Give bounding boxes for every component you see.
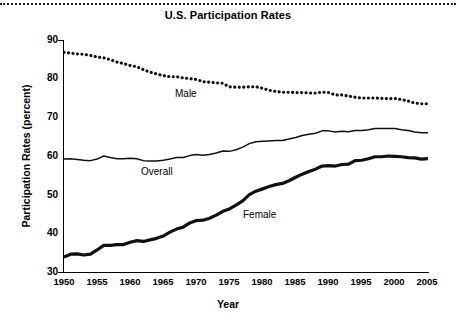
y-tick-label: 80 (28, 73, 58, 83)
y-tick-label: 90 (28, 35, 58, 45)
x-tick-label: 2005 (407, 276, 447, 288)
y-tick-label: 70 (28, 112, 58, 122)
chart-title: U.S. Participation Rates (0, 9, 456, 21)
series-canvas (64, 40, 428, 272)
top-divider-rule (0, 3, 456, 5)
series-label-male: Male (175, 88, 197, 99)
series-label-overall: Overall (141, 166, 173, 177)
y-tick-label: 50 (28, 190, 58, 200)
plot-area (64, 40, 428, 272)
series-line-male (64, 52, 428, 103)
x-axis-line (63, 272, 429, 273)
series-label-female: Female (243, 209, 276, 220)
series-line-female (64, 156, 428, 257)
x-axis-title: Year (0, 298, 456, 310)
y-tick-label: 40 (28, 228, 58, 238)
y-tick-label: 60 (28, 151, 58, 161)
x-axis-tick-labels: 1950 1955 1960 1965 1970 1975 1980 1985 … (0, 276, 456, 292)
